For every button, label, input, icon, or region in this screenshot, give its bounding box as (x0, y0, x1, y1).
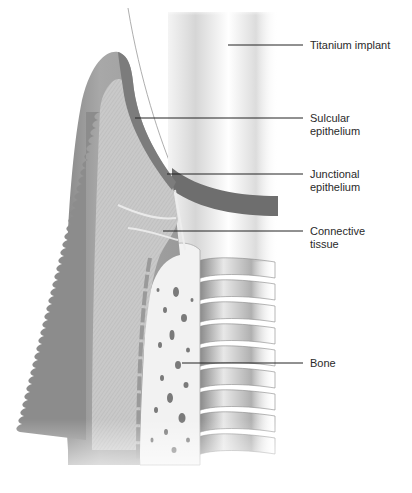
label-bone: Bone (310, 357, 336, 370)
label-titanium-implant: Titanium implant (310, 39, 390, 52)
label-sulcular-epithelium: Sulcular epithelium (310, 112, 360, 138)
label-junctional-epithelium: Junctional epithelium (310, 168, 360, 194)
label-connective-tissue: Connective tissue (310, 225, 365, 251)
